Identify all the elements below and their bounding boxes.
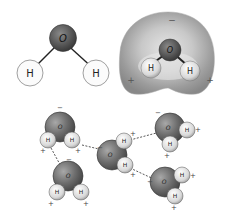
- oxygen-label: O: [162, 178, 167, 185]
- oxygen-label: O: [59, 33, 67, 44]
- hydrogen-label: H: [70, 136, 75, 143]
- positive-charge-sign-left: +: [127, 75, 135, 85]
- hydrogen-label-right: H: [92, 68, 100, 79]
- oxygen-label: O: [58, 123, 63, 130]
- map-oxygen-label: O: [167, 46, 173, 55]
- partial-negative-sign: −: [147, 178, 153, 186]
- map-hydrogen-label-left: H: [148, 64, 154, 73]
- hydrogen-label: H: [185, 126, 190, 133]
- hydrogen-bonding-network: O H H − + + O H H − + + O H: [40, 104, 201, 211]
- hydrogen-label: H: [122, 137, 127, 144]
- water-molecule: O H H − + +: [155, 109, 201, 160]
- partial-negative-sign: −: [57, 104, 63, 112]
- hydrogen-label: H: [123, 161, 128, 168]
- partial-positive-sign: +: [40, 147, 46, 155]
- partial-negative-sign: −: [97, 144, 103, 152]
- partial-negative-sign: −: [66, 156, 72, 164]
- partial-positive-sign: +: [171, 204, 177, 211]
- map-hydrogen-label-right: H: [187, 67, 193, 76]
- partial-positive-sign: +: [190, 172, 196, 180]
- partial-positive-sign: +: [83, 200, 89, 208]
- hydrogen-label-left: H: [26, 68, 34, 79]
- oxygen-label: O: [166, 124, 171, 131]
- partial-positive-sign: +: [164, 152, 170, 160]
- hydrogen-label: H: [180, 171, 185, 178]
- hydrogen-label: H: [79, 188, 84, 195]
- hydrogen-label: H: [168, 140, 173, 147]
- positive-charge-sign-right: +: [206, 75, 214, 85]
- partial-negative-sign: −: [155, 109, 161, 117]
- electrostatic-potential-map: O H H − + +: [119, 12, 214, 94]
- partial-positive-sign: +: [75, 147, 81, 155]
- water-molecule: O H H − + +: [40, 104, 81, 155]
- oxygen-label: O: [108, 151, 113, 158]
- oxygen-label: O: [66, 172, 71, 179]
- hydrogen-label: H: [173, 192, 178, 199]
- partial-positive-sign: +: [130, 130, 136, 138]
- partial-positive-sign: +: [195, 126, 201, 134]
- hydrogen-label: H: [55, 188, 60, 195]
- water-molecule: O H H − + +: [147, 167, 196, 211]
- ball-and-stick-model: O H H: [17, 25, 109, 87]
- hydrogen-label: H: [46, 136, 51, 143]
- water-molecule-diagram: O H H O H H − + + O H H: [0, 0, 227, 211]
- water-molecule: O H H − + +: [97, 130, 136, 179]
- partial-positive-sign: +: [48, 200, 54, 208]
- partial-positive-sign: +: [130, 171, 136, 179]
- water-molecule: O H H − + +: [48, 156, 89, 208]
- negative-charge-sign: −: [168, 15, 176, 25]
